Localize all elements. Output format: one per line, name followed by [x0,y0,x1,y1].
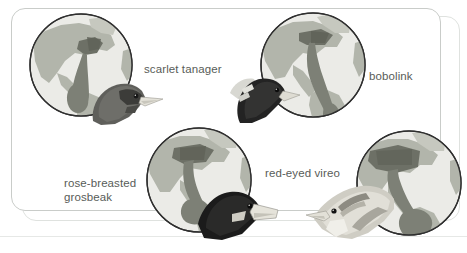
bird-head-rose-breasted-grosbeak-svg [198,184,282,242]
bird-head-red-eyed-vireo-svg [304,181,398,243]
bird-group-red-eyed-vireo[interactable]: red-eyed vireo [266,127,466,247]
bird-group-bobolink[interactable]: bobolink [253,9,443,129]
figure-root: scarlet tanager [0,0,467,253]
bird-group-rose-breasted-grosbeak[interactable]: rose-breasted grosbeak [60,124,290,249]
bird-group-scarlet-tanager[interactable]: scarlet tanager [27,11,242,126]
bird-head-rose-breasted-grosbeak [198,184,282,242]
bird-label-rose-breasted-grosbeak: rose-breasted grosbeak [64,176,136,204]
bird-label-scarlet-tanager: scarlet tanager [144,62,222,76]
bird-head-scarlet-tanager [89,77,165,127]
bird-head-scarlet-tanager-svg [89,77,165,127]
bird-head-red-eyed-vireo [304,181,398,243]
bird-label-bobolink: bobolink [369,69,413,83]
